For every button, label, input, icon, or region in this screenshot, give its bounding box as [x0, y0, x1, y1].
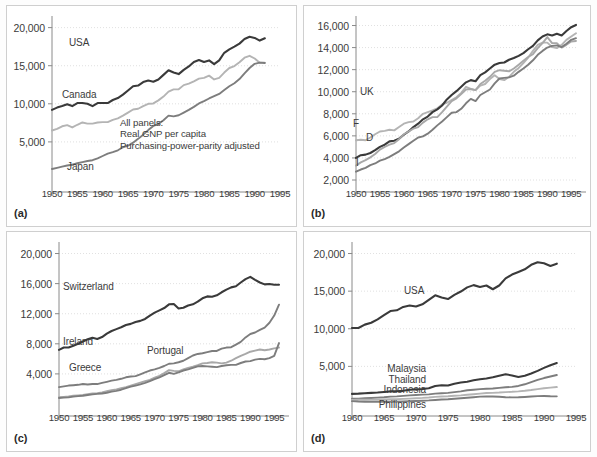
- series-label-philippines: Philippines: [379, 399, 426, 410]
- series-line-uk: [356, 33, 576, 140]
- x-axis-tick-label: 1970: [441, 188, 462, 199]
- x-axis-tick-label: 1975: [168, 412, 189, 423]
- plot-area-d: [304, 232, 597, 442]
- series-label-usa: USA: [69, 37, 89, 48]
- x-axis-tick-label: 1960: [97, 412, 118, 423]
- x-axis-tick-label: 1970: [143, 188, 164, 199]
- x-axis-tick-label: 1950: [42, 188, 63, 199]
- x-axis-tick-label: 1960: [342, 412, 363, 423]
- series-line-i: [356, 38, 576, 172]
- x-axis-tick-label: 1980: [489, 188, 510, 199]
- x-axis-tick-label: 1975: [465, 188, 486, 199]
- series-label-greece: Greece: [69, 362, 101, 373]
- series-label-d: D: [366, 132, 373, 143]
- y-axis-tick-label: 16,000: [304, 20, 349, 32]
- series-label-uk: UK: [360, 86, 374, 97]
- series-label-japan: Japan: [67, 161, 94, 172]
- panel-d-content: 5,00010,00015,00020,00019601965197019751…: [304, 232, 590, 451]
- x-axis-tick-label: 1990: [240, 412, 261, 423]
- panel-c-content: 4,0008,00012,00016,00020,000195019551960…: [7, 232, 296, 451]
- series-label-malaysia: Malaysia: [387, 363, 426, 374]
- y-axis-tick-label: 4,000: [7, 368, 52, 380]
- panel-b: 2,0004,0006,0008,00010,00012,00014,00016…: [303, 5, 591, 227]
- y-axis-tick-label: 5,000: [304, 360, 345, 372]
- x-axis-tick-label: 1965: [120, 412, 141, 423]
- x-axis-tick-label: 1960: [394, 188, 415, 199]
- all-panels-note: All panels: Real GNP per capita Purchasi…: [120, 117, 260, 151]
- x-axis-tick-label: 1960: [92, 188, 113, 199]
- x-axis-tick-label: 1980: [192, 412, 213, 423]
- y-axis-tick-label: 12,000: [304, 64, 349, 76]
- x-axis-tick-label: 1990: [537, 188, 558, 199]
- panel-c-caption: (c): [14, 432, 27, 444]
- y-axis-tick-label: 12,000: [7, 308, 52, 320]
- x-axis-tick-label: 1995: [566, 412, 587, 423]
- x-axis-tick-label: 1955: [73, 412, 94, 423]
- panel-b-caption: (b): [311, 207, 325, 219]
- panel-a: 5,00010,00015,00020,00019501955196019651…: [6, 5, 297, 227]
- x-axis-tick-label: 1965: [118, 188, 139, 199]
- plot-area-a: [7, 6, 307, 216]
- panel-a-content: 5,00010,00015,00020,00019501955196019651…: [7, 6, 296, 226]
- y-axis-tick-label: 10,000: [7, 98, 45, 110]
- panel-d: 5,00010,00015,00020,00019601965197019751…: [303, 231, 591, 452]
- panel-c: 4,0008,00012,00016,00020,000195019551960…: [6, 231, 297, 452]
- x-axis-tick-label: 1995: [270, 188, 291, 199]
- y-axis-tick-label: 15,000: [7, 60, 45, 72]
- plot-area-c: [7, 232, 307, 442]
- figure-root: 5,00010,00015,00020,00019501955196019651…: [0, 0, 597, 457]
- series-label-canada: Canada: [62, 89, 96, 100]
- y-axis-tick-label: 10,000: [304, 86, 349, 98]
- y-axis-tick-label: 4,000: [304, 152, 349, 164]
- x-axis-tick-label: 1950: [49, 412, 70, 423]
- x-axis-tick-label: 1985: [502, 412, 523, 423]
- series-line-d: [356, 37, 576, 166]
- x-axis-tick-label: 1985: [216, 412, 237, 423]
- y-axis-tick-label: 6,000: [304, 130, 349, 142]
- x-axis-tick-label: 1965: [374, 412, 395, 423]
- x-axis-tick-label: 1995: [264, 412, 285, 423]
- y-axis-tick-label: 8,000: [7, 338, 52, 350]
- x-axis-tick-label: 1990: [534, 412, 555, 423]
- series-label-f: F: [353, 118, 359, 129]
- y-axis-tick-label: 20,000: [304, 248, 345, 260]
- series-label-switzerland: Switzerland: [63, 281, 114, 292]
- x-axis-tick-label: 1965: [417, 188, 438, 199]
- x-axis-tick-label: 1950: [346, 188, 367, 199]
- series-label-ireland: Ireland: [63, 336, 93, 347]
- x-axis-tick-label: 1975: [168, 188, 189, 199]
- x-axis-tick-label: 1985: [513, 188, 534, 199]
- y-axis-tick-label: 2,000: [304, 174, 349, 186]
- series-line-usa: [352, 262, 557, 328]
- x-axis-tick-label: 1980: [194, 188, 215, 199]
- y-axis-tick-label: 15,000: [304, 285, 345, 297]
- series-label-i: I: [356, 157, 359, 168]
- x-axis-tick-label: 1955: [67, 188, 88, 199]
- y-axis-tick-label: 5,000: [7, 136, 45, 148]
- y-axis-tick-label: 16,000: [7, 278, 52, 290]
- series-label-portugal: Portugal: [147, 345, 183, 356]
- y-axis-tick-label: 20,000: [7, 22, 45, 34]
- x-axis-tick-label: 1995: [561, 188, 582, 199]
- y-axis-tick-label: 20,000: [7, 248, 52, 260]
- panel-d-caption: (d): [311, 432, 325, 444]
- x-axis-tick-label: 1975: [438, 412, 459, 423]
- x-axis-tick-label: 1985: [219, 188, 240, 199]
- series-label-usa: USA: [404, 285, 424, 296]
- x-axis-tick-label: 1970: [406, 412, 427, 423]
- x-axis-tick-label: 1970: [144, 412, 165, 423]
- y-axis-tick-label: 10,000: [304, 323, 345, 335]
- x-axis-tick-label: 1980: [470, 412, 491, 423]
- panel-b-content: 2,0004,0006,0008,00010,00012,00014,00016…: [304, 6, 590, 226]
- y-axis-tick-label: 14,000: [304, 42, 349, 54]
- x-axis-tick-label: 1990: [244, 188, 265, 199]
- y-axis-tick-label: 8,000: [304, 108, 349, 120]
- x-axis-tick-label: 1955: [370, 188, 391, 199]
- series-label-indonesia: Indonesia: [384, 384, 426, 395]
- panel-a-caption: (a): [14, 207, 27, 219]
